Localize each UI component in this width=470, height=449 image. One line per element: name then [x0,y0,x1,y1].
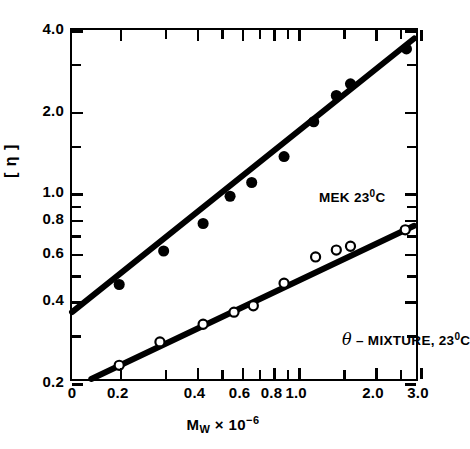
y-axis-tick [72,220,83,223]
series-label-mek: MEK 230C [319,188,386,205]
y-axis-minor-tick [72,275,81,278]
series-label-theta: θ – MIXTURE, 230C [342,330,470,349]
data-point [155,337,164,346]
y-axis-minor-tick [407,64,416,67]
data-point [249,301,258,310]
data-point [332,245,341,254]
data-point [114,279,125,290]
y-axis-minor-tick [407,206,416,209]
x-axis-tick-label: 0.4 [184,384,205,401]
x-axis-minor-tick [343,370,346,379]
x-axis-tick [375,368,378,379]
series-label-theta-unit: C [460,333,470,348]
y-axis-minor-tick [72,335,81,338]
x-axis-tick-label: 0.8 [261,384,282,401]
data-point [199,320,208,329]
x-axis-origin-label: 0 [68,384,77,401]
x-axis-minor-tick [259,370,262,379]
x-axis-tick [120,30,123,41]
x-axis-tick [197,30,200,41]
data-point [346,242,355,251]
x-axis-minor-tick [343,30,346,39]
series-label-theta-text: – MIXTURE, 23 [352,333,454,348]
series-mek-markers [114,43,412,290]
y-axis-tick [72,193,83,196]
x-axis-title-main: M [187,416,200,433]
data-point [401,225,410,234]
y-axis-tick [72,30,83,33]
x-axis-minor-tick [287,370,290,379]
y-axis-tick [405,254,416,257]
x-axis-minor-tick [259,30,262,39]
y-axis-tick-label: 0.4 [20,291,64,308]
x-axis-tick [298,30,301,41]
data-point [308,116,319,127]
x-axis-title-exponent: −6 [246,414,259,426]
data-point [280,279,289,288]
x-axis-tick [242,368,245,379]
data-point [311,252,320,261]
x-axis-tick-label: 0.2 [107,384,128,401]
y-axis-minor-tick [72,235,81,238]
x-axis-minor-tick [165,370,168,379]
series-label-mek-unit: C [375,190,385,205]
data-point [279,151,290,162]
theta-symbol: θ [342,330,352,349]
y-axis-minor-tick [72,206,81,209]
x-axis-minor-tick [221,370,224,379]
x-axis-title-times: × 10 [210,416,246,433]
trend-lines [72,38,414,379]
x-axis-tick [420,368,423,379]
y-axis-tick [405,30,416,33]
y-axis-minor-tick [407,335,416,338]
x-axis-minor-tick [165,30,168,39]
y-axis-tick-label: 0.2 [20,373,64,390]
y-axis-tick [72,112,83,115]
trend-line [72,38,414,312]
y-axis-tick [405,301,416,304]
data-point [158,245,169,256]
x-axis-tick-label: 2.0 [362,384,383,401]
y-axis-minor-tick [72,146,81,149]
y-axis-minor-tick [407,275,416,278]
data-point [401,43,412,54]
data-point [229,308,238,317]
x-axis-minor-tick [221,30,224,39]
data-point [331,90,342,101]
y-axis-tick-label: 4.0 [20,20,64,37]
x-axis-title-subscript: W [199,423,210,435]
y-axis-minor-tick [72,64,81,67]
y-axis-tick [405,193,416,196]
x-axis-tick-label: 1.0 [285,384,306,401]
x-axis-minor-tick [400,370,403,379]
x-axis-tick [375,30,378,41]
data-point [345,78,356,89]
data-point [246,177,257,188]
y-axis-tick [405,112,416,115]
x-axis-tick [120,368,123,379]
x-axis-tick [273,30,276,41]
y-axis-minor-tick [407,235,416,238]
plot-area: MEK 230C θ – MIXTURE, 230C [70,28,418,381]
y-axis-title: [ η ] [2,144,20,178]
y-axis-tick-label: 0.8 [20,209,64,226]
x-axis-tick [197,368,200,379]
y-axis-tick-label: 0.6 [20,243,64,260]
y-axis-tick-label: 2.0 [20,101,64,118]
y-axis-tick [72,254,83,257]
x-axis-tick-label: 3.0 [407,384,428,401]
x-axis-tick [273,368,276,379]
x-axis-minor-tick [400,30,403,39]
x-axis-tick-label: 0.6 [229,384,250,401]
x-axis-tick [242,30,245,41]
x-axis-tick [420,30,423,41]
y-axis-minor-tick [407,146,416,149]
data-point [198,218,209,229]
y-axis-tick [405,220,416,223]
data-point [225,191,236,202]
x-axis-minor-tick [287,30,290,39]
x-axis-tick [298,368,301,379]
y-axis-tick [72,301,83,304]
series-label-mek-text: MEK 23 [319,190,370,205]
